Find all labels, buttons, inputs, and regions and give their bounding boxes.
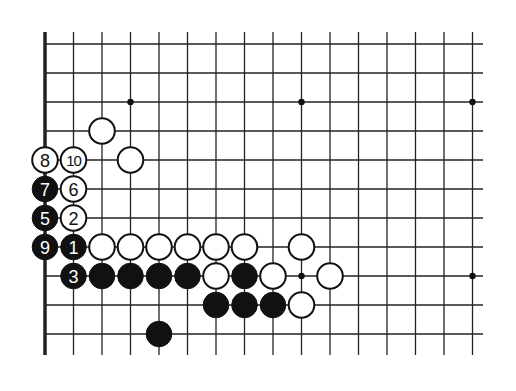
white-stone (175, 234, 201, 260)
black-stone (146, 263, 172, 289)
star-point-icon (298, 273, 304, 279)
white-stone (89, 118, 115, 144)
black-stone-1: 1 (61, 234, 87, 260)
go-board-diagram: 8107652913 (0, 0, 516, 391)
star-point-icon (469, 99, 475, 105)
white-stone (260, 263, 286, 289)
white-stone (146, 234, 172, 260)
white-stone-8: 8 (32, 147, 58, 173)
black-stone (118, 263, 144, 289)
black-stone (89, 263, 115, 289)
white-stone-2: 2 (61, 205, 87, 231)
go-board-canvas: 8107652913 (0, 0, 516, 391)
move-number-label: 5 (40, 209, 50, 229)
black-stone-5: 5 (32, 205, 58, 231)
white-stone (89, 234, 115, 260)
white-stone (118, 147, 144, 173)
star-point-icon (298, 99, 304, 105)
move-number-label: 6 (68, 180, 78, 200)
white-stone-6: 6 (61, 176, 87, 202)
black-stone (232, 263, 258, 289)
white-stone (289, 292, 315, 318)
black-stone-7: 7 (32, 176, 58, 202)
black-stone (260, 292, 286, 318)
star-point-icon (469, 273, 475, 279)
white-stone (232, 234, 258, 260)
white-stone (203, 263, 229, 289)
white-stone (317, 263, 343, 289)
black-stone (146, 321, 172, 347)
star-point-icon (127, 99, 133, 105)
black-stone-9: 9 (32, 234, 58, 260)
move-number-label: 7 (40, 180, 50, 200)
white-stone (289, 234, 315, 260)
black-stone (203, 292, 229, 318)
black-stone (175, 263, 201, 289)
move-number-label: 3 (68, 267, 78, 287)
black-stone (232, 292, 258, 318)
white-stone (118, 234, 144, 260)
move-number-label: 1 (68, 238, 78, 258)
black-stone-3: 3 (61, 263, 87, 289)
white-stone-10: 10 (61, 147, 87, 173)
move-number-label: 8 (40, 151, 50, 171)
move-number-label: 2 (68, 209, 78, 229)
move-number-label: 10 (66, 152, 81, 169)
white-stone (203, 234, 229, 260)
move-number-label: 9 (40, 238, 50, 258)
